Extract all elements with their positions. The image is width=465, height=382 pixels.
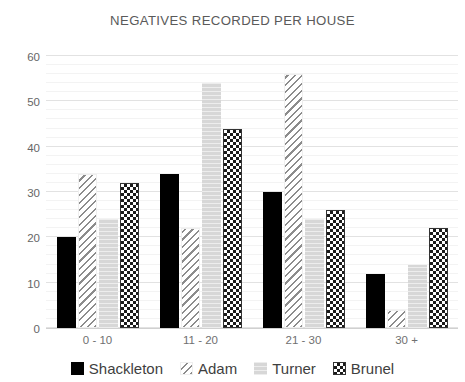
bar-brunel [120,183,139,328]
y-tick-label: 20 [0,232,40,244]
chart-legend: ShackletonAdamTurnerBrunel [0,360,465,377]
bar-group [46,56,149,328]
legend-item[interactable]: Adam [180,360,237,377]
legend-label: Shackleton [89,360,163,377]
legend-label: Brunel [351,360,394,377]
bar-chart: NEGATIVES RECORDED PER HOUSE 01020304050… [0,0,465,382]
chart-title: NEGATIVES RECORDED PER HOUSE [0,13,465,28]
bar-adam [78,174,97,328]
legend-item[interactable]: Brunel [333,360,394,377]
bar-group [149,56,252,328]
bar-adam [387,310,406,328]
x-tick-label: 21 - 30 [286,334,322,346]
bar-brunel [326,210,345,328]
bar-brunel [223,129,242,328]
bar-shackleton [160,174,179,328]
y-tick-label: 50 [0,96,40,108]
solid-black-swatch [71,362,84,375]
bar-turner [305,219,324,328]
bar-turner [99,219,118,328]
checkerboard-swatch [333,362,346,375]
legend-label: Turner [272,360,316,377]
bar-group [355,56,458,328]
x-tick-label: 30 + [395,334,418,346]
bar-adam [181,228,200,328]
bars-layer [46,56,458,329]
x-tick-label: 0 - 10 [83,334,112,346]
y-tick-label: 0 [0,323,40,335]
bar-turner [202,83,221,328]
bar-shackleton [366,274,385,328]
bar-shackleton [57,237,76,328]
y-tick-label: 30 [0,187,40,199]
x-axis: 0 - 1011 - 2021 - 3030 + [46,334,458,352]
bar-brunel [429,228,448,328]
legend-item[interactable]: Shackleton [71,360,163,377]
bar-turner [408,265,427,328]
x-axis-line [46,328,458,329]
diagonal-hatch-swatch [180,362,193,375]
y-tick-label: 10 [0,278,40,290]
y-tick-label: 40 [0,142,40,154]
light-gray-swatch [254,362,267,375]
y-axis: 0102030405060 [0,56,40,329]
bar-group [252,56,355,328]
legend-item[interactable]: Turner [254,360,316,377]
bar-shackleton [263,192,282,328]
x-tick-label: 11 - 20 [183,334,218,346]
y-tick-label: 60 [0,51,40,63]
legend-label: Adam [198,360,237,377]
plot-area [46,56,458,329]
bar-adam [284,74,303,328]
